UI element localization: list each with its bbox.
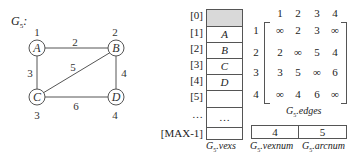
matrix-cell: ∞: [324, 88, 346, 100]
vexnum-box: 4: [251, 125, 299, 139]
vexs-index: [0]: [143, 9, 203, 21]
weight-c-d: 6: [73, 100, 79, 112]
vexs-index: [3]: [143, 58, 203, 70]
arcnum-caption: G5.arcnum: [302, 140, 345, 153]
weight-a-b: 2: [72, 36, 78, 48]
vexs-cell-6: …: [206, 107, 243, 128]
node-a-label: A: [32, 41, 41, 55]
graph-diagram: A B C D 1 2 3 4 2 3 5 4 6: [0, 0, 130, 154]
vexs-cell-2: B: [206, 42, 243, 59]
vexs-index: [2]: [143, 42, 203, 54]
matrix-cell: 6: [324, 66, 346, 78]
vexs-cell-0: [206, 9, 243, 27]
matrix-cell: 4: [324, 46, 346, 58]
vexs-cell-4: D: [206, 74, 243, 91]
caption-field: .vexnum: [260, 140, 293, 151]
caption-field: .arcnum: [312, 140, 345, 151]
vexs-index: [5]: [143, 90, 203, 102]
vexs-cell-7: [206, 127, 243, 140]
edge-b-c: [43, 52, 111, 93]
arcnum-box: 5: [298, 125, 347, 139]
node-d-label: D: [111, 90, 121, 104]
node-c-index: 3: [34, 109, 40, 121]
vexs-cell-3: C: [206, 58, 243, 75]
edges-caption: G5.edges: [286, 105, 322, 118]
vexs-caption: G5.vexs: [206, 140, 236, 153]
node-a-index: 1: [34, 26, 40, 38]
caption-field: .vexs: [216, 140, 236, 151]
caption-field: .edges: [296, 105, 321, 116]
node-b-label: B: [112, 41, 120, 55]
weight-a-c: 3: [27, 67, 33, 79]
matrix-cell: ∞: [324, 24, 346, 36]
node-b-index: 2: [112, 26, 118, 38]
vexs-index: …: [143, 108, 203, 120]
matrix-col-header: 4: [324, 7, 346, 19]
weight-b-c: 5: [70, 61, 76, 73]
vexnum-caption: G5.vexnum: [250, 140, 293, 153]
node-c-label: C: [33, 90, 42, 104]
vexs-index: [1]: [143, 26, 203, 38]
vexs-index: [4]: [143, 74, 203, 86]
vexs-cell-5: [206, 90, 243, 108]
node-d-index: 4: [112, 109, 118, 121]
weight-b-d: 4: [121, 67, 127, 79]
vexs-index: [MAX-1]: [143, 127, 203, 139]
vexs-cell-1: A: [206, 26, 243, 43]
